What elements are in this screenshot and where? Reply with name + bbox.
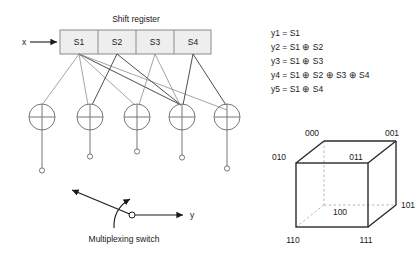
cube-vertex-100: 100 [333, 207, 347, 217]
equation-y3: y3 = S1 ⊕ S3 [271, 56, 323, 66]
cube-vertex-101: 101 [401, 200, 415, 210]
xor-gate-2 [77, 104, 103, 159]
multiplexing-switch[interactable]: y Multiplexing switch [72, 190, 195, 244]
tap-lines-s4 [183, 54, 226, 105]
xor-gate-5 [214, 104, 240, 171]
cube-vertex-001: 001 [385, 128, 399, 138]
output-label-y: y [190, 210, 195, 220]
tap-lines-s1 [42, 54, 227, 110]
register-cell-s1: S1 [74, 37, 85, 47]
cube-hidden-edge [296, 205, 324, 227]
cube-edge [296, 141, 324, 163]
cube-vertex-000: 000 [305, 128, 319, 138]
cube-front-face [296, 163, 368, 227]
cube-edge [368, 205, 396, 227]
cube-vertex-011: 011 [349, 152, 363, 162]
switch-pivot[interactable] [129, 212, 135, 218]
xor-gate-1 [29, 104, 55, 173]
cube-vertex-110: 110 [286, 235, 300, 245]
cube-edge [368, 141, 396, 163]
multiplexing-switch-caption: Multiplexing switch [89, 234, 160, 244]
xor-gate-3 [124, 104, 150, 154]
input-label-x: x [22, 37, 27, 47]
diagram-canvas: Shift register x S1 S2 S3 S4 [0, 0, 420, 255]
xor-gate-4-terminal [179, 155, 184, 160]
switch-arm[interactable] [72, 190, 132, 215]
xor-gate-2-terminal [87, 154, 92, 159]
equation-list: y1 = S1 y2 = S1 ⊕ S2 y3 = S1 ⊕ S3 y4 = S… [271, 28, 370, 94]
cube-vertex-111: 111 [360, 235, 373, 245]
equation-y5: y5 = S1 ⊕ S4 [271, 84, 323, 94]
cube-vertex-010: 010 [272, 152, 286, 162]
xor-gate-1-terminal [39, 168, 44, 173]
equation-y2: y2 = S1 ⊕ S2 [271, 42, 323, 52]
xor-gate-3-terminal [134, 149, 139, 154]
xor-gate-5-terminal [224, 166, 229, 171]
register-cell-s3: S3 [150, 37, 161, 47]
hypercube-diagram: 000 001 010 011 100 101 110 111 [272, 128, 415, 245]
register-cell-s2: S2 [112, 37, 123, 47]
register-cell-s4: S4 [188, 37, 199, 47]
shift-register-title: Shift register [112, 14, 160, 24]
tap-lines-s3 [139, 54, 180, 105]
equation-y1: y1 = S1 [271, 28, 300, 38]
xor-gate-4 [169, 104, 195, 160]
equation-y4: y4 = S1 ⊕ S2 ⊕ S3 ⊕ S4 [271, 70, 370, 80]
